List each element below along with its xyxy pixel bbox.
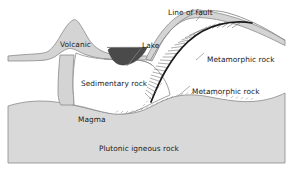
- label-volcanic: Volcanic: [60, 41, 91, 48]
- label-plutonic-igneous-rock: Plutonic igneous rock: [99, 145, 179, 152]
- label-metamorphic-rock-upper: Metamorphic rock: [207, 56, 275, 63]
- label-line-of-fault: Line of fault: [168, 9, 213, 16]
- leader-metamorphic-upper: [196, 53, 204, 60]
- geological-cross-section-diagram: Volcanic Lake Line of fault Metamorphic …: [0, 0, 293, 170]
- label-sedimentary-rock: Sedimentary rock: [81, 80, 147, 87]
- label-magma: Magma: [78, 116, 106, 123]
- label-lake: Lake: [142, 42, 159, 49]
- label-metamorphic-rock-lower: Metamorphic rock: [192, 88, 260, 95]
- volcanic-conduit: [58, 55, 74, 105]
